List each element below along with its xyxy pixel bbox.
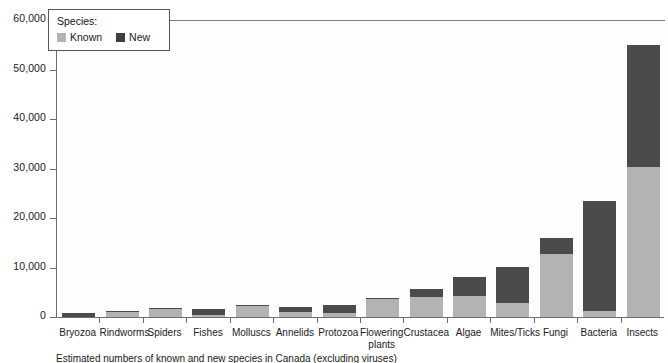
bar-segment-known xyxy=(453,296,486,318)
bar-segment-known xyxy=(410,297,443,318)
figure-caption: Estimated numbers of known and new speci… xyxy=(56,353,397,363)
bar-segment-new xyxy=(279,307,312,312)
bar-segment-new xyxy=(453,277,486,296)
bar-segment-new xyxy=(627,45,660,167)
y-tick-label: 50,000 xyxy=(13,62,46,74)
x-axis-label: Insects xyxy=(621,327,664,339)
x-axis-label: Fungi xyxy=(534,327,577,339)
y-tick-label: 20,000 xyxy=(13,210,46,222)
x-tick-mark xyxy=(99,318,100,323)
bar-segment-known xyxy=(540,254,573,318)
y-tick-label: 0 xyxy=(40,309,46,321)
bar-algae[interactable] xyxy=(453,277,486,318)
x-tick-mark xyxy=(534,318,535,323)
bar-fungi[interactable] xyxy=(540,238,573,318)
legend-title: Species: xyxy=(57,15,160,28)
bar-segment-known xyxy=(496,303,529,318)
y-tick-label: 40,000 xyxy=(13,111,46,123)
x-axis-label: Molluscs xyxy=(230,327,273,339)
bar-insects[interactable] xyxy=(627,45,660,318)
bar-segment-known xyxy=(366,298,399,318)
legend-label-new: New xyxy=(129,31,150,44)
legend-swatch-known-icon xyxy=(57,33,66,42)
legend-swatch-new-icon xyxy=(116,33,125,42)
x-axis-label: Fishes xyxy=(186,327,229,339)
legend-entries: Known New xyxy=(57,31,160,44)
x-tick-mark xyxy=(143,318,144,323)
legend-entry-new: New xyxy=(116,31,150,44)
legend-entry-known: Known xyxy=(57,31,102,44)
y-tick-label: 10,000 xyxy=(13,260,46,272)
x-tick-mark xyxy=(317,318,318,323)
x-axis-label: Protozoa xyxy=(317,327,360,339)
bar-flowering-plants[interactable] xyxy=(366,298,399,318)
x-axis-label: Annelids xyxy=(273,327,316,339)
x-tick-mark xyxy=(360,318,361,323)
bar-bacteria[interactable] xyxy=(583,201,616,318)
x-axis-label: Flowering plants xyxy=(360,327,403,350)
x-tick-mark xyxy=(490,318,491,323)
x-tick-mark xyxy=(621,318,622,323)
x-axis-label: Bacteria xyxy=(577,327,620,339)
x-tick-mark xyxy=(273,318,274,323)
species-chart-figure: 010,00020,00030,00040,00050,00060,000 Br… xyxy=(0,0,668,363)
bar-segment-new xyxy=(192,309,225,315)
x-tick-mark xyxy=(230,318,231,323)
x-tick-mark xyxy=(447,318,448,323)
bar-segment-new xyxy=(496,267,529,303)
plot-area xyxy=(56,20,665,318)
x-tick-mark xyxy=(577,318,578,323)
bar-mites-ticks[interactable] xyxy=(496,267,529,318)
legend: Species: Known New xyxy=(48,9,170,51)
x-axis-label: Algae xyxy=(447,327,490,339)
bar-segment-new xyxy=(323,305,356,313)
x-axis-label: Mites/Ticks xyxy=(490,327,533,339)
x-axis-label: Bryozoa xyxy=(56,327,99,339)
bar-segment-new xyxy=(540,238,573,254)
x-axis-label: Rindworms xyxy=(99,327,142,339)
x-axis-label: Spiders xyxy=(143,327,186,339)
x-axis-label: Crustacea xyxy=(403,327,446,339)
legend-label-known: Known xyxy=(70,31,102,44)
bar-segment-new xyxy=(410,289,443,296)
bar-segment-new xyxy=(583,201,616,311)
x-tick-mark xyxy=(403,318,404,323)
bar-crustacea[interactable] xyxy=(410,289,443,318)
bar-segment-known xyxy=(627,167,660,318)
x-axis: BryozoaRindwormsSpidersFishesMolluscsAnn… xyxy=(56,317,664,318)
y-tick-label: 30,000 xyxy=(13,161,46,173)
y-tick-label: 60,000 xyxy=(13,12,46,24)
x-tick-mark xyxy=(186,318,187,323)
